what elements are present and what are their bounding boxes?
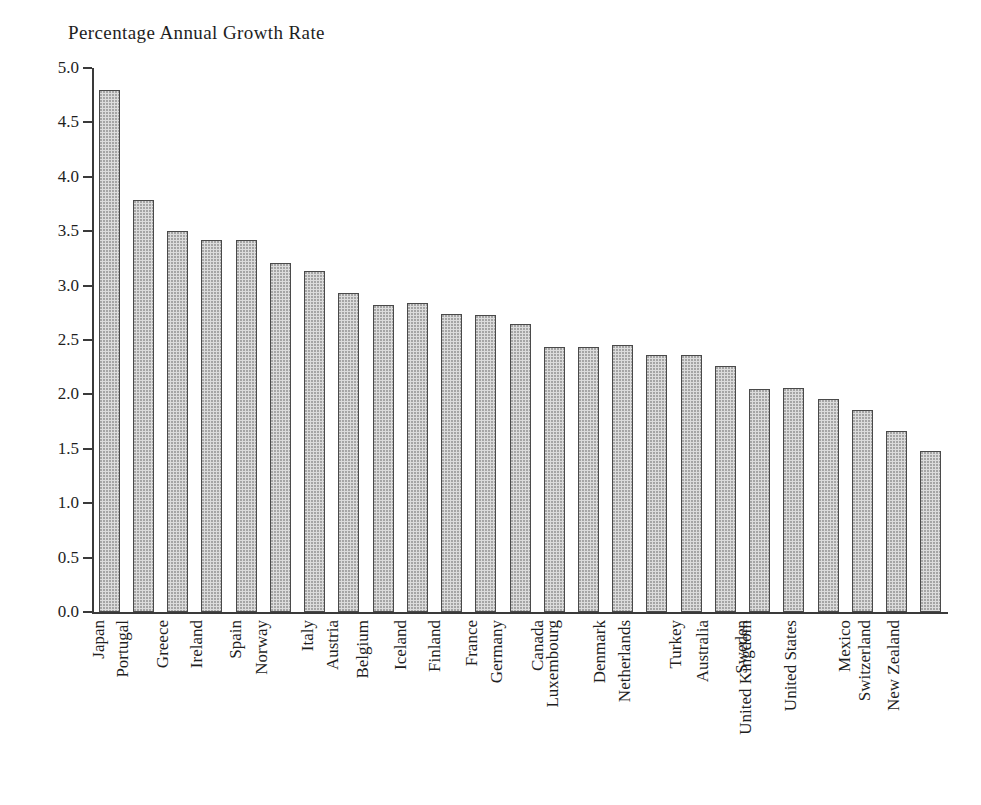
x-tick-label: Netherlands — [616, 620, 633, 702]
bar — [920, 451, 941, 612]
bar — [612, 345, 633, 612]
chart-figure: Percentage Annual Growth Rate 0.00.51.01… — [0, 0, 981, 805]
y-tick-mark — [83, 557, 92, 559]
bar-slot — [612, 68, 633, 612]
x-tick-label: Australia — [694, 620, 711, 682]
bar-series — [92, 68, 948, 612]
bar-slot — [270, 68, 291, 612]
y-tick-label: 3.5 — [58, 221, 79, 241]
y-tick-label: 5.0 — [58, 58, 79, 78]
bar — [304, 271, 325, 612]
x-label-slot: New Zealand — [914, 620, 948, 800]
bar-slot — [852, 68, 873, 612]
bar — [818, 399, 839, 612]
x-tick-label: Portugal — [115, 620, 132, 678]
y-tick-mark — [83, 448, 92, 450]
bar — [715, 366, 736, 612]
bar-slot — [338, 68, 359, 612]
x-label-slot: Norway — [263, 620, 297, 800]
x-tick-label: Iceland — [392, 620, 409, 670]
x-tick-label: Germany — [488, 620, 505, 683]
y-tick-mark — [83, 611, 92, 613]
bar-slot — [373, 68, 394, 612]
x-tick-label: Japan — [90, 620, 107, 659]
bar-slot — [886, 68, 907, 612]
bar — [578, 347, 599, 612]
y-tick-label: 2.0 — [58, 384, 79, 404]
bar-slot — [510, 68, 531, 612]
y-tick-label: 3.0 — [58, 276, 79, 296]
bar — [270, 263, 291, 612]
y-tick-mark — [83, 121, 92, 123]
x-tick-label: Switzerland — [856, 620, 873, 701]
bar — [510, 324, 531, 612]
bar — [407, 303, 428, 612]
bar — [338, 293, 359, 612]
y-tick-mark — [83, 67, 92, 69]
bar-slot — [167, 68, 188, 612]
y-tick-mark — [83, 339, 92, 341]
x-tick-label: Italy — [299, 620, 316, 651]
bar — [441, 314, 462, 612]
bar-slot — [133, 68, 154, 612]
y-tick-mark — [83, 176, 92, 178]
bar-slot — [681, 68, 702, 612]
bar — [99, 90, 120, 612]
bar — [133, 200, 154, 612]
x-tick-label: Ireland — [188, 620, 205, 668]
y-tick-mark — [83, 230, 92, 232]
bar — [886, 431, 907, 612]
bar-slot — [441, 68, 462, 612]
y-tick-label: 0.5 — [58, 548, 79, 568]
bar — [783, 388, 804, 612]
y-tick-label: 1.0 — [58, 493, 79, 513]
bar-slot — [646, 68, 667, 612]
x-tick-label: Finland — [426, 620, 443, 672]
bar — [373, 305, 394, 612]
x-tick-label: Luxembourg — [545, 620, 562, 708]
x-tick-label: Belgium — [354, 620, 371, 679]
y-tick-label: 0.0 — [58, 602, 79, 622]
x-tick-label: Norway — [253, 620, 270, 675]
plot-area: 0.00.51.01.52.02.53.03.54.04.55.0 — [92, 68, 948, 612]
y-tick-mark — [83, 502, 92, 504]
x-tick-label: United Kingdom — [737, 620, 754, 735]
y-tick-label: 4.0 — [58, 167, 79, 187]
x-tick-label: France — [463, 620, 480, 666]
x-tick-label: Turkey — [667, 620, 684, 669]
bar — [646, 355, 667, 612]
y-tick-label: 4.5 — [58, 112, 79, 132]
bar-slot — [818, 68, 839, 612]
bar-slot — [236, 68, 257, 612]
y-tick-mark — [83, 285, 92, 287]
bar — [201, 240, 222, 612]
bar-slot — [304, 68, 325, 612]
y-tick-mark — [83, 393, 92, 395]
bar-slot — [201, 68, 222, 612]
chart-title: Percentage Annual Growth Rate — [68, 22, 325, 44]
x-tick-label: New Zealand — [885, 620, 902, 711]
bar — [167, 231, 188, 612]
x-tick-label: Spain — [227, 620, 244, 659]
bar-slot — [783, 68, 804, 612]
bar-slot — [544, 68, 565, 612]
x-axis-line — [92, 612, 948, 614]
bar — [475, 315, 496, 612]
bar-slot — [920, 68, 941, 612]
bar — [749, 389, 770, 612]
x-label-slot: Ireland — [195, 620, 229, 800]
x-tick-label: Austria — [324, 620, 341, 670]
bar-slot — [715, 68, 736, 612]
x-tick-label: United States — [783, 620, 800, 711]
bar — [236, 240, 257, 612]
x-tick-label: Greece — [154, 620, 171, 668]
bar — [852, 410, 873, 612]
bar-slot — [578, 68, 599, 612]
x-tick-label: Denmark — [591, 620, 608, 683]
x-axis-labels: JapanPortugalGreeceIrelandSpainNorwayIta… — [92, 620, 948, 800]
y-tick-label: 2.5 — [58, 330, 79, 350]
y-tick-label: 1.5 — [58, 439, 79, 459]
bar-slot — [99, 68, 120, 612]
bar-slot — [407, 68, 428, 612]
bar-slot — [475, 68, 496, 612]
